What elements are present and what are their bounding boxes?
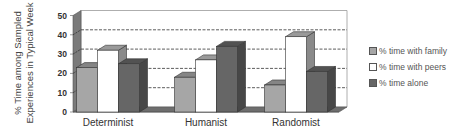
bar-randomist-alone [307, 71, 328, 112]
chart: % Time among SampledExperiences in Typic… [0, 0, 465, 133]
bar-side [328, 66, 336, 112]
legend-label-peers: % time with peers [379, 62, 446, 72]
bar-humanist-family [175, 77, 196, 112]
legend-item-peers: % time with peers [369, 59, 447, 75]
legend-swatch-family [369, 47, 377, 55]
bar-randomist-family [265, 85, 286, 112]
legend-item-alone: % time alone [369, 75, 447, 91]
y-tick-label: 50 [58, 11, 68, 21]
bar-determinist-family [77, 68, 98, 112]
legend-item-family: % time with family [369, 43, 447, 59]
bar-determinist-alone [119, 64, 140, 112]
bar-randomist-peers [286, 37, 307, 112]
bar-side [238, 41, 246, 112]
y-tick-label: 30 [58, 49, 68, 59]
y-tick-label: 0 [62, 107, 67, 117]
x-tick-randomist: Randomist [272, 117, 320, 128]
bar-determinist-peers [98, 50, 119, 112]
legend-swatch-alone [369, 79, 377, 87]
bar-side [140, 59, 148, 112]
bar-humanist-alone [217, 46, 238, 112]
legend: % time with family % time with peers % t… [369, 43, 447, 91]
y-tick-label: 40 [58, 30, 68, 40]
x-tick-humanist: Humanist [185, 117, 227, 128]
x-tick-determinist: Determinist [83, 117, 134, 128]
legend-swatch-peers [369, 63, 377, 71]
legend-label-alone: % time alone [379, 78, 428, 88]
y-tick-label: 20 [58, 68, 68, 78]
legend-label-family: % time with family [379, 46, 447, 56]
y-tick-label: 10 [58, 88, 68, 98]
bar-humanist-peers [196, 60, 217, 112]
